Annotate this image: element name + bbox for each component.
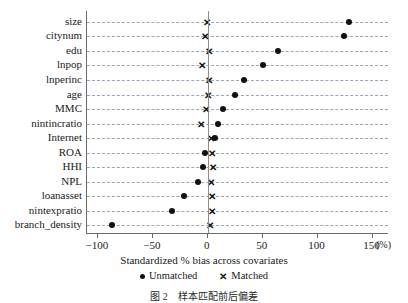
data-point-matched-loanasset: ✕ — [208, 192, 217, 201]
gridline — [87, 211, 388, 212]
x-axis-tick — [207, 234, 208, 238]
y-axis-label-internet: Internet — [48, 130, 82, 145]
legend-label: Matched — [231, 270, 268, 281]
x-axis-title: Standardized % bias across covariates — [0, 254, 408, 266]
legend-item-unmatched: Unmatched — [140, 270, 197, 281]
x-axis-tick — [97, 234, 98, 238]
data-point-unmatched-lnpop — [260, 62, 266, 68]
x-axis-tick-label: −100 — [86, 239, 109, 251]
x-axis-tick — [372, 234, 373, 238]
x-icon: ✕ — [219, 271, 227, 282]
legend: Unmatched✕Matched — [0, 270, 408, 282]
x-axis-tick-label: 50 — [256, 239, 267, 251]
gridline — [87, 196, 388, 197]
data-point-unmatched-mmc — [220, 106, 226, 112]
data-point-matched-roa: ✕ — [208, 148, 217, 157]
dot-icon — [140, 274, 145, 279]
y-axis-label-branch_density: branch_density — [15, 217, 82, 232]
data-point-matched-lnperinc: ✕ — [204, 76, 213, 85]
y-axis-label-mmc: MMC — [55, 101, 82, 116]
data-point-matched-hhi: ✕ — [209, 163, 218, 172]
y-axis-label-loanasset: loanasset — [42, 188, 82, 203]
data-point-unmatched-nintincratio — [215, 121, 221, 127]
data-point-matched-edu: ✕ — [204, 46, 213, 55]
y-axis-label-npl: NPL — [61, 174, 82, 189]
gridline — [87, 167, 388, 168]
data-point-unmatched-age — [232, 92, 238, 98]
gridline — [87, 182, 388, 183]
data-point-matched-lnpop: ✕ — [198, 61, 207, 70]
gridline — [87, 109, 388, 110]
gridline — [87, 80, 388, 81]
data-point-matched-nintexpratio: ✕ — [208, 206, 217, 215]
y-axis-label-nintincratio: nintincratio — [31, 116, 82, 131]
gridline — [87, 22, 388, 23]
zero-reference-line — [208, 11, 209, 233]
data-point-unmatched-size — [346, 19, 352, 25]
y-axis-label-age: age — [67, 87, 82, 102]
y-axis-label-lnpop: lnpop — [57, 57, 82, 72]
y-axis-label-size: size — [65, 14, 82, 29]
gridline — [87, 153, 388, 154]
data-point-matched-nintincratio: ✕ — [197, 119, 206, 128]
gridline — [87, 65, 388, 66]
x-axis-tick-label: 0 — [204, 239, 210, 251]
data-point-unmatched-loanasset — [181, 193, 187, 199]
y-axis-label-citynum: citynum — [46, 28, 82, 43]
data-point-unmatched-roa — [202, 150, 208, 156]
gridline — [87, 138, 388, 139]
y-axis-label-edu: edu — [66, 43, 82, 58]
data-point-unmatched-hhi — [200, 164, 206, 170]
figure-caption: 图 2 样本匹配前后偏差 — [0, 288, 408, 303]
y-axis-label-hhi: HHI — [62, 159, 82, 174]
gridline — [87, 51, 388, 52]
gridline — [87, 225, 388, 226]
data-point-unmatched-npl — [195, 179, 201, 185]
x-axis-tick — [152, 234, 153, 238]
x-axis-tick-label: −50 — [143, 239, 160, 251]
data-point-unmatched-edu — [275, 48, 281, 54]
data-point-unmatched-citynum — [341, 33, 347, 39]
plot-frame: sizecitynumedulnpoplnperincageMMCnintinc… — [86, 11, 388, 234]
x-axis-tick-label: 150 — [363, 239, 380, 251]
data-point-matched-size: ✕ — [202, 17, 211, 26]
x-axis-tick — [317, 234, 318, 238]
legend-item-matched: ✕Matched — [219, 270, 268, 282]
y-axis-label-nintexpratio: nintexpratio — [29, 203, 82, 218]
data-point-unmatched-nintexpratio — [169, 208, 175, 214]
x-axis-tick-label: 100 — [308, 239, 325, 251]
plot-rows: sizecitynumedulnpoplnperincageMMCnintinc… — [87, 11, 388, 233]
data-point-unmatched-branch_density — [109, 222, 115, 228]
data-point-unmatched-lnperinc — [241, 77, 247, 83]
y-axis-label-roa: ROA — [59, 145, 82, 160]
gridline — [87, 124, 388, 125]
x-axis-tick — [262, 234, 263, 238]
y-axis-label-lnperinc: lnperinc — [46, 72, 82, 87]
legend-label: Unmatched — [149, 270, 197, 281]
